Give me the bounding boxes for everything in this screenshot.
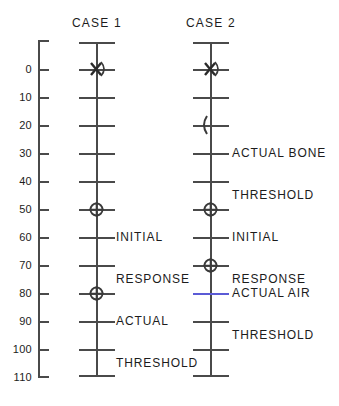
case-1-actual-threshold-label: ACTUAL THRESHOLD	[116, 286, 198, 398]
case-2-actual-air-line1: ACTUAL AIR	[232, 286, 314, 300]
case-1-tick-70	[79, 265, 115, 267]
case-1-tick-90	[79, 321, 115, 323]
case-1-tick-10	[79, 97, 115, 99]
circle-crossed-icon-case-2-50	[202, 201, 219, 218]
case-1-tick-30	[79, 153, 115, 155]
axis-tick-80	[40, 293, 49, 295]
case-2-tick-110	[193, 375, 229, 377]
audiogram-masking-diagram: CASE 1 CASE 2 0 10 20 30 40 50 60 70 80 …	[0, 0, 339, 406]
axis-label-70: 70	[2, 260, 32, 271]
axis-tick-10	[40, 97, 49, 99]
axis-label-100: 100	[2, 344, 32, 355]
circle-crossed-icon-case-2-70	[202, 257, 219, 274]
axis-label-60: 60	[2, 232, 32, 243]
case-2-tick-60	[193, 237, 229, 239]
axis-label-80: 80	[2, 288, 32, 299]
case-1-initial-response-line1: INITIAL	[116, 230, 190, 244]
case-2-initial-response-line1: INITIAL	[232, 230, 306, 244]
case-1-tick-top	[79, 42, 115, 44]
bone-conduction-bracket-icon-case-2	[196, 114, 214, 136]
case-2-title: CASE 2	[186, 17, 236, 29]
case-1-tick-110	[79, 375, 115, 377]
case-2-tick-80-highlight	[193, 293, 229, 295]
case-2-tick-90	[193, 321, 229, 323]
case-2-tick-100	[193, 349, 229, 351]
axis-tick-70	[40, 265, 49, 267]
case-2-tick-10	[193, 97, 229, 99]
case-1-actual-threshold-line2: THRESHOLD	[116, 356, 198, 370]
axis-tick-100	[40, 349, 49, 351]
axis-label-40: 40	[2, 176, 32, 187]
axis-label-20: 20	[2, 120, 32, 131]
axis-tick-30	[40, 153, 49, 155]
x-masked-bone-icon-case-1	[84, 58, 114, 80]
axis-tick-40	[40, 181, 49, 183]
axis-top-cap	[38, 40, 49, 42]
axis-label-90: 90	[2, 316, 32, 327]
case-2-tick-top	[193, 42, 229, 44]
case-1-initial-response-line2: RESPONSE	[116, 272, 190, 286]
case-1-tick-40	[79, 181, 115, 183]
axis-tick-60	[40, 237, 49, 239]
axis-tick-90	[40, 321, 49, 323]
axis-label-10: 10	[2, 92, 32, 103]
case-1-title: CASE 1	[72, 17, 122, 29]
x-masked-bone-icon-case-2	[198, 58, 228, 80]
case-1-tick-60	[79, 237, 115, 239]
case-1-tick-20	[79, 125, 115, 127]
case-1-tick-100	[79, 349, 115, 351]
axis-label-30: 30	[2, 148, 32, 159]
axis-tick-20	[40, 125, 49, 127]
case-2-actual-bone-line1: ACTUAL BONE	[232, 146, 326, 160]
case-1-actual-threshold-line1: ACTUAL	[116, 314, 198, 328]
case-2-actual-bone-line2: THRESHOLD	[232, 188, 326, 202]
axis-label-0: 0	[2, 64, 32, 75]
circle-crossed-icon-case-1-80	[88, 285, 105, 302]
axis-label-110: 110	[2, 372, 32, 383]
axis-tick-0	[40, 69, 49, 71]
axis-label-50: 50	[2, 204, 32, 215]
axis-tick-50	[40, 209, 49, 211]
axis-bottom-cap	[38, 376, 49, 378]
case-2-tick-30	[193, 153, 229, 155]
case-2-actual-air-label: ACTUAL AIR THRESHOLD	[232, 258, 314, 370]
case-2-actual-air-line2: THRESHOLD	[232, 328, 314, 342]
case-2-tick-40	[193, 181, 229, 183]
circle-crossed-icon-case-1-50	[88, 201, 105, 218]
